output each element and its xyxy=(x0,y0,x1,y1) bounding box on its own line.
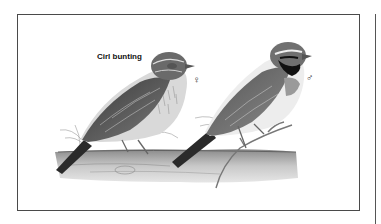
female-symbol: ♀ xyxy=(193,74,201,85)
male-symbol: ♂ xyxy=(306,72,314,83)
bunting-illustration xyxy=(0,0,381,224)
male-bunting xyxy=(172,42,312,168)
species-caption: Cirl bunting xyxy=(97,52,142,61)
